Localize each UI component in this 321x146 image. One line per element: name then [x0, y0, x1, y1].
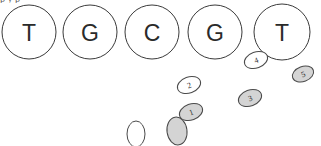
numbered-ellipse-group: 4 5 2 3 1 [175, 48, 316, 123]
circle-letter: C [144, 20, 161, 46]
circle-letter: G [81, 20, 99, 46]
diagram-svg: T G C G T 4 [0, 0, 321, 146]
numbered-ellipse-3[interactable]: 3 [236, 86, 264, 109]
bottom-left-ellipse[interactable] [127, 121, 145, 146]
diagram-canvas: p y p T G C G [0, 0, 321, 146]
nucleotide-circle-c-1[interactable]: C [125, 5, 179, 59]
nucleotide-circle-group: T G C G T [2, 4, 310, 60]
circle-letter: T [275, 20, 289, 46]
circle-letter: G [206, 20, 224, 46]
numbered-ellipse-5[interactable]: 5 [290, 63, 316, 85]
circle-letter: T [22, 20, 36, 46]
numbered-ellipse-2[interactable]: 2 [175, 73, 203, 96]
unlabeled-ellipse-group [127, 116, 189, 146]
nucleotide-circle-g-1[interactable]: G [63, 5, 117, 59]
nucleotide-circle-g-2[interactable]: G [188, 5, 242, 59]
nucleotide-circle-t-1[interactable]: T [2, 5, 56, 59]
